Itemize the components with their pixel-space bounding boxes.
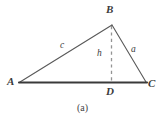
vertex-label-b: B bbox=[106, 4, 113, 15]
vertex-label-c: C bbox=[148, 78, 155, 89]
vertex-label-d: D bbox=[106, 86, 114, 97]
vertex-label-a: A bbox=[7, 76, 14, 87]
altitude-label-h: h bbox=[97, 49, 102, 59]
figure-container: A B C D c h a (a) bbox=[0, 0, 165, 123]
triangle-side-bc bbox=[112, 25, 146, 82]
side-label-a: a bbox=[131, 45, 136, 55]
side-label-c: c bbox=[60, 41, 64, 51]
figure-caption: (a) bbox=[0, 103, 165, 113]
